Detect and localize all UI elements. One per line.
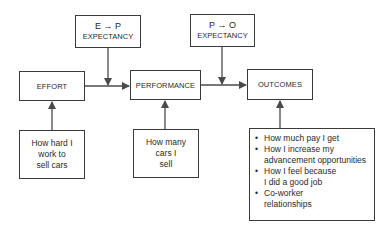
outcome-item-text: How much pay I get	[264, 133, 366, 144]
outcomes-box: OUTCOMES	[247, 69, 313, 100]
outcome-item-text: advancement opportunities	[264, 155, 366, 166]
ep-expectancy-symbol: E → P	[95, 21, 121, 32]
outcome-item-feeling: • How I feel because I did a good job	[255, 166, 366, 188]
effort-example-line: work to	[38, 149, 65, 160]
po-expectancy-box: P → O EXPECTANCY	[190, 14, 255, 47]
bullet-icon: •	[255, 188, 258, 199]
po-expectancy-symbol: P → O	[209, 20, 236, 31]
effort-label: EFFORT	[37, 82, 67, 91]
performance-box: PERFORMANCE	[130, 70, 201, 100]
bullet-icon: •	[255, 144, 258, 155]
po-expectancy-label: EXPECTANCY	[197, 31, 247, 41]
outcomes-example-box: • How much pay I get • How I increase my…	[249, 128, 375, 221]
effort-example-line: sell cars	[36, 160, 67, 171]
performance-example-line: sell	[160, 159, 173, 170]
effort-example-line: How hard I	[31, 138, 72, 149]
outcome-item-text: I did a good job	[264, 177, 366, 188]
outcome-item-coworker: • Co-worker relationships	[255, 188, 366, 210]
outcome-item-pay: • How much pay I get	[255, 133, 366, 144]
outcome-item-text: Co-worker	[264, 188, 366, 199]
performance-example-line: How many	[146, 137, 186, 148]
outcomes-label: OUTCOMES	[258, 80, 302, 89]
performance-label: PERFORMANCE	[136, 81, 195, 90]
bullet-icon: •	[255, 166, 258, 177]
ep-expectancy-box: E → P EXPECTANCY	[75, 15, 141, 48]
performance-example-box: How many cars I sell	[133, 129, 199, 178]
effort-box: EFFORT	[19, 71, 85, 101]
performance-example-line: cars I	[156, 148, 177, 159]
ep-expectancy-label: EXPECTANCY	[83, 32, 133, 42]
effort-example-box: How hard I work to sell cars	[19, 130, 85, 179]
bullet-icon: •	[255, 133, 258, 144]
outcomes-list: • How much pay I get • How I increase my…	[255, 133, 366, 210]
outcome-item-text: How I feel because	[264, 166, 366, 177]
outcome-item-advancement: • How I increase my advancement opportun…	[255, 144, 366, 166]
outcome-item-text: relationships	[264, 199, 366, 210]
outcome-item-text: How I increase my	[264, 144, 366, 155]
